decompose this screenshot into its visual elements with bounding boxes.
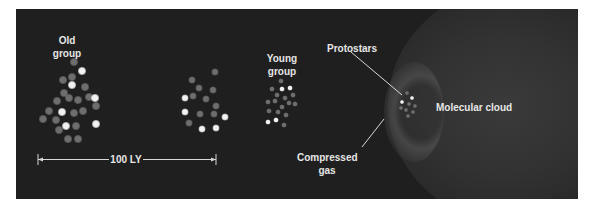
compressed-gas-pointer (362, 119, 384, 147)
compressed-gas-label: Compressed gas (297, 151, 357, 177)
young-group-label: Young group (264, 52, 300, 78)
old-group-label: Old group (52, 34, 82, 60)
old-group-label-line1: Old (52, 34, 82, 47)
scale-bar-label: 100 LY (110, 153, 142, 166)
protostars-label: Protostars (327, 42, 377, 55)
molecular-cloud-label: Molecular cloud (436, 101, 512, 114)
star-formation-diagram: Old group Young group Protostars Molecul… (16, 9, 578, 199)
compressed-gas-label-line1: Compressed (297, 151, 357, 164)
young-group-label-line1: Young (264, 52, 300, 65)
old-group-label-line2: group (52, 47, 82, 60)
compressed-gas-label-line2: gas (297, 164, 357, 177)
protostars-pointer (351, 52, 402, 95)
young-group-label-line2: group (264, 65, 300, 78)
